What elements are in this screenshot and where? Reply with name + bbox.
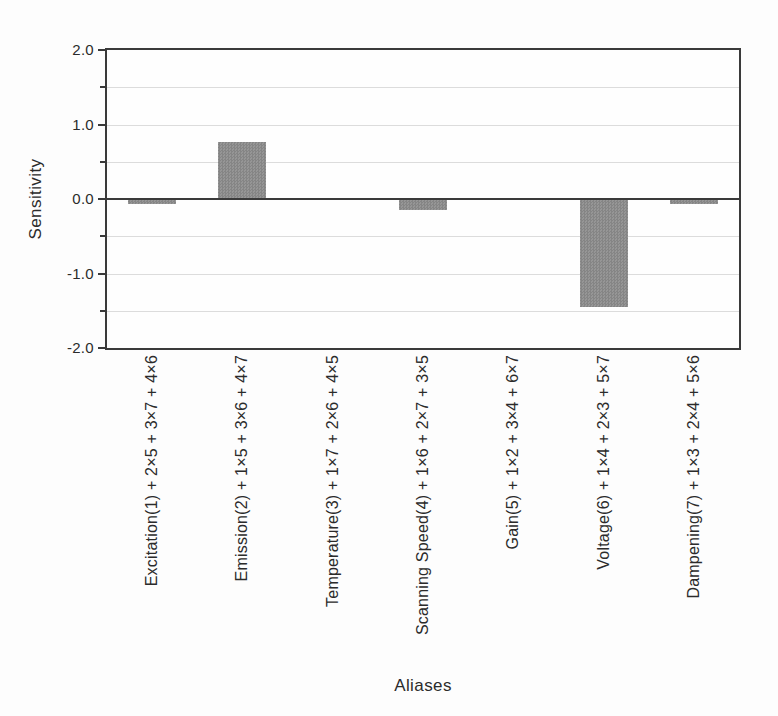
y-tick-label: 1.0: [36, 116, 94, 134]
gridline: [107, 236, 739, 237]
sensitivity-bar-chart: Sensitivity Aliases 2.01.00.0-1.0-2.0Exc…: [0, 0, 778, 716]
gridline: [107, 311, 739, 312]
y-minor-tick: [100, 161, 107, 163]
bar: [580, 199, 628, 307]
y-tick-label: 0.0: [36, 190, 94, 208]
x-axis-title: Aliases: [359, 675, 487, 697]
gridline: [107, 162, 739, 163]
y-tick-label: 2.0: [36, 41, 94, 59]
gridline: [107, 125, 739, 126]
y-major-tick: [98, 347, 107, 349]
x-category-label: Emission(2) + 1×5 + 3×6 + 4×7: [232, 355, 252, 655]
x-category-label: Gain(5) + 1×2 + 3×4 + 6×7: [503, 355, 523, 655]
x-category-label: Excitation(1) + 2×5 + 3×7 + 4×6: [142, 355, 162, 655]
bar: [399, 199, 447, 210]
gridline: [107, 274, 739, 275]
y-tick-label: -2.0: [36, 339, 94, 357]
y-minor-tick: [100, 86, 107, 88]
gridline: [107, 87, 739, 88]
x-category-label: Voltage(6) + 1×4 + 2×3 + 5×7: [594, 355, 614, 655]
y-major-tick: [98, 49, 107, 51]
y-major-tick: [98, 124, 107, 126]
y-minor-tick: [100, 310, 107, 312]
y-minor-tick: [100, 235, 107, 237]
y-tick-label: -1.0: [36, 265, 94, 283]
x-category-label: Dampening(7) + 1×3 + 2×4 + 5×6: [684, 355, 704, 655]
x-category-label: Scanning Speed(4) + 1×6 + 2×7 + 3×5: [413, 355, 433, 655]
bar: [218, 142, 266, 199]
zero-axis-line: [107, 198, 739, 200]
x-category-label: Temperature(3) + 1×7 + 2×6 + 4×5: [323, 355, 343, 655]
y-major-tick: [98, 198, 107, 200]
y-major-tick: [98, 273, 107, 275]
